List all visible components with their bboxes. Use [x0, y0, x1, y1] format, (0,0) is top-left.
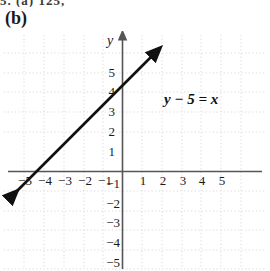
- x-tick-label-neg2: −2: [78, 173, 92, 188]
- x-tick-label-neg5: −5: [18, 173, 32, 188]
- part-label-b: (b): [5, 9, 27, 27]
- y-tick-label-neg3: −3: [106, 215, 120, 230]
- x-tick-label-1: 1: [140, 173, 147, 188]
- y-tick-label-2: 2: [109, 124, 116, 139]
- worked-solution-figure: 5. (a) 125, (b): [0, 0, 270, 271]
- grid-horizontal-lines: [4, 53, 266, 269]
- y-tick-label-neg2: −2: [106, 196, 120, 211]
- graph-svg: y y − 5 = x 5 4 3 2 1 −1 −2 −3 −4 −5 −5 …: [0, 31, 270, 271]
- y-axis-letter: y: [105, 33, 114, 48]
- cutoff-previous-answer-text: 5. (a) 125,: [0, 0, 200, 7]
- x-tick-label-4: 4: [199, 173, 206, 188]
- equation-annotation: y − 5 = x: [162, 91, 219, 107]
- y-tick-label-4: 4: [109, 84, 116, 99]
- x-tick-label-3: 3: [180, 173, 187, 188]
- x-tick-label-2: 2: [160, 173, 167, 188]
- x-tick-label-neg4: −4: [38, 173, 52, 188]
- x-tick-label-neg3: −3: [58, 173, 72, 188]
- x-tick-label-5: 5: [219, 173, 226, 188]
- y-tick-label-5: 5: [109, 65, 116, 80]
- y-tick-label-neg5: −5: [106, 255, 120, 270]
- y-tick-label-1: 1: [109, 144, 116, 159]
- y-tick-label-3: 3: [109, 104, 116, 119]
- x-tick-label-neg1: −1: [98, 173, 112, 188]
- coordinate-graph: y y − 5 = x 5 4 3 2 1 −1 −2 −3 −4 −5 −5 …: [0, 31, 270, 271]
- y-tick-label-neg4: −4: [106, 235, 120, 250]
